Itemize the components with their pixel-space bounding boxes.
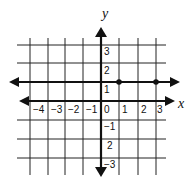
svg-text:3: 3 xyxy=(157,104,163,115)
svg-text:0: 0 xyxy=(104,104,110,115)
svg-text:3: 3 xyxy=(104,46,110,57)
svg-text:−1: −1 xyxy=(86,104,98,115)
arrow-left-icon xyxy=(19,96,29,106)
svg-text:−3: −3 xyxy=(51,104,63,115)
x-tick-labels: −4 −3 −2 −1 0 1 2 3 xyxy=(33,104,163,115)
arrow-up-icon xyxy=(95,27,107,37)
svg-text:1: 1 xyxy=(122,104,128,115)
svg-text:2: 2 xyxy=(107,140,113,151)
x-axis-label: x xyxy=(177,96,185,111)
svg-text:−2: −2 xyxy=(68,104,80,115)
arrow-right-icon xyxy=(165,96,175,106)
arrow-right-icon xyxy=(170,77,180,87)
svg-text:−1: −1 xyxy=(104,121,116,132)
graphed-line xyxy=(9,77,180,87)
y-axis-label: y xyxy=(100,6,109,21)
svg-text:1: 1 xyxy=(104,84,110,95)
coordinate-plane: y x −4 −3 −2 −1 0 1 2 3 3 2 1 −1 2 −3 xyxy=(0,0,194,182)
arrow-left-icon xyxy=(9,77,19,87)
svg-text:−3: −3 xyxy=(104,159,116,170)
svg-text:−4: −4 xyxy=(33,104,45,115)
point-3-1 xyxy=(153,79,159,85)
point-1-1 xyxy=(116,79,122,85)
svg-text:2: 2 xyxy=(141,104,147,115)
svg-text:2: 2 xyxy=(104,65,110,76)
